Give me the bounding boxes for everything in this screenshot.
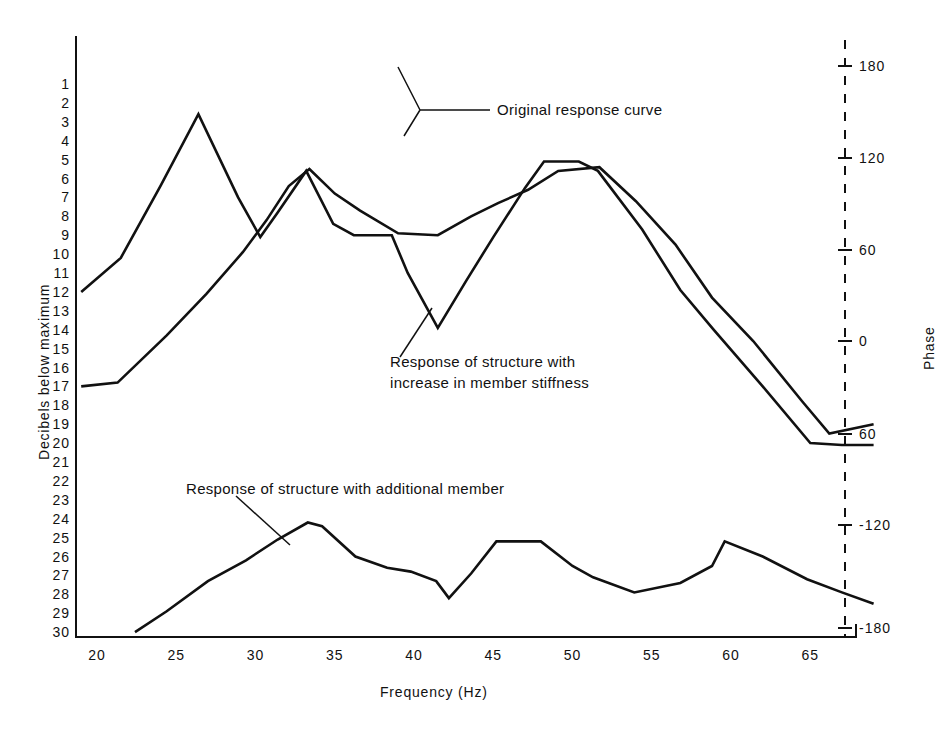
phase-tick-label: -180 xyxy=(859,621,891,635)
y-tick-label: 6 xyxy=(38,172,70,186)
y-tick-label: 26 xyxy=(38,550,70,564)
x-tick-label: 50 xyxy=(553,648,593,662)
x-tick-label: 20 xyxy=(77,648,117,662)
x-tick-label: 40 xyxy=(394,648,434,662)
x-tick-label: 65 xyxy=(790,648,830,662)
y-tick-label: 1 xyxy=(38,77,70,91)
phase-tick-label: 60 xyxy=(859,243,877,257)
x-axis-title: Frequency (Hz) xyxy=(380,684,488,700)
y-tick-label: 28 xyxy=(38,587,70,601)
phase-tick-label: 60 xyxy=(859,427,877,441)
y-tick-label: 25 xyxy=(38,531,70,545)
leader-line-additional xyxy=(236,496,290,545)
curve-original-response xyxy=(81,114,873,445)
x-tick-label: 30 xyxy=(236,648,276,662)
annotation-original-response: Original response curve xyxy=(497,100,662,120)
phase-axis-title: Phase xyxy=(921,326,937,370)
curve-additional-member xyxy=(135,523,874,633)
y-tick-label: 3 xyxy=(38,115,70,129)
y-tick-label: 11 xyxy=(38,266,70,280)
y-tick-label: 4 xyxy=(38,134,70,148)
y-tick-label: 27 xyxy=(38,568,70,582)
y-tick-label: 30 xyxy=(38,625,70,639)
y-tick-label: 9 xyxy=(38,228,70,242)
chart-figure: 1234567891011121314151617181920212223242… xyxy=(0,0,944,730)
phase-tick-label: 180 xyxy=(859,59,885,73)
x-tick-label: 45 xyxy=(473,648,513,662)
x-tick-label: 35 xyxy=(315,648,355,662)
x-tick-label: 55 xyxy=(632,648,672,662)
y-tick-label: 2 xyxy=(38,96,70,110)
y-axis-title: Decibels below maximum xyxy=(36,284,52,460)
annotation-additional-member: Response of structure with additional me… xyxy=(186,479,504,499)
phase-tick-label: -120 xyxy=(859,518,891,532)
y-tick-label: 23 xyxy=(38,493,70,507)
y-tick-label: 5 xyxy=(38,153,70,167)
annotation-increase-stiffness-line1: Response of structure with xyxy=(390,352,575,372)
curve-increased-stiffness xyxy=(81,167,873,433)
x-tick-label: 25 xyxy=(156,648,196,662)
x-tick-label: 60 xyxy=(711,648,751,662)
y-tick-label: 24 xyxy=(38,512,70,526)
annotation-increase-stiffness-line2: increase in member stiffness xyxy=(390,373,589,393)
phase-tick-label: 0 xyxy=(859,334,868,348)
leader-line-stiffness xyxy=(400,308,432,357)
y-tick-label: 22 xyxy=(38,474,70,488)
y-tick-label: 8 xyxy=(38,209,70,223)
y-tick-label: 7 xyxy=(38,190,70,204)
leader-line-original xyxy=(398,67,490,136)
y-tick-label: 29 xyxy=(38,606,70,620)
y-tick-label: 10 xyxy=(38,247,70,261)
phase-tick-label: 120 xyxy=(859,151,885,165)
